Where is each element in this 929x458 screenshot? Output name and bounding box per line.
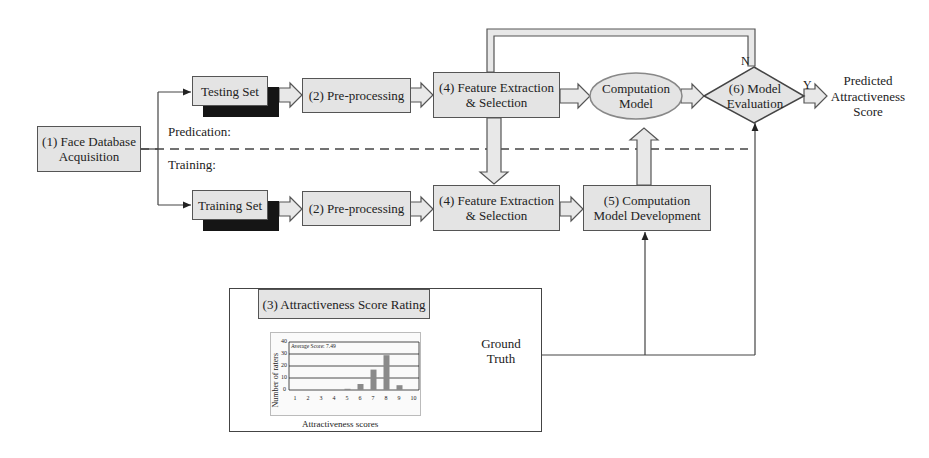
node-computation-model: Computation Model: [590, 80, 682, 112]
histogram-bar: [358, 384, 364, 390]
output-line2: Attractiveness: [831, 89, 905, 105]
node-comp-dev-line2: Model Development: [593, 208, 700, 223]
node-preprocessing-test-label: (2) Pre-processing: [309, 88, 405, 103]
histogram-xtick: 4: [333, 395, 336, 401]
node-testing-set-label: Testing Set: [201, 84, 259, 99]
node-preprocessing-train-label: (2) Pre-processing: [309, 201, 405, 216]
node-feature-extraction-test: (4) Feature Extraction & Selection: [433, 72, 560, 118]
node-feature-test-line2: & Selection: [466, 95, 528, 110]
histogram-bar: [397, 385, 403, 390]
node-attractiveness-rating: (3) Attractiveness Score Rating: [258, 289, 430, 319]
ytick-10: 10: [281, 374, 287, 380]
histogram-annotation: Average Score: 7.49: [291, 343, 336, 349]
node-comp-dev-line1: (5) Computation: [604, 193, 690, 208]
node-preprocessing-test: (2) Pre-processing: [302, 78, 411, 113]
output-line3: Score: [853, 104, 883, 120]
node-training-set-label: Training Set: [198, 198, 262, 213]
node-model-evaluation-line2: Evaluation: [727, 96, 783, 111]
label-training: Training:: [168, 157, 216, 173]
node-feature-train-line2: & Selection: [466, 208, 528, 223]
node-model-evaluation: (6) Model Evaluation: [715, 80, 795, 112]
histogram-xlabel: Attractiveness scores: [302, 419, 378, 429]
node-feature-test-line1: (4) Feature Extraction: [439, 80, 554, 95]
node-feature-extraction-train: (4) Feature Extraction & Selection: [433, 185, 560, 231]
histogram-xtick: 1: [294, 395, 297, 401]
histogram-bar: [345, 389, 351, 390]
histogram-bar: [384, 355, 390, 390]
node-feature-train-line1: (4) Feature Extraction: [439, 193, 554, 208]
label-no: N: [741, 54, 750, 69]
node-face-database: (1) Face Database Acquisition: [37, 126, 141, 172]
ground-truth-label: Ground Truth: [466, 336, 536, 366]
node-preprocessing-train: (2) Pre-processing: [302, 191, 411, 226]
histogram-xtick: 6: [359, 395, 362, 401]
node-face-database-line2: Acquisition: [59, 149, 120, 164]
node-testing-set: Testing Set: [192, 76, 268, 106]
node-computation-model-line2: Model: [619, 96, 653, 111]
rating-histogram: Average Score: 7.49 40 30 20 10 0 123456…: [270, 332, 421, 416]
histogram-xtick: 5: [346, 395, 349, 401]
output-predicted-score: Predicted Attractiveness Score: [826, 73, 910, 120]
node-attractiveness-rating-label: (3) Attractiveness Score Rating: [263, 297, 426, 312]
node-computation-model-development: (5) Computation Model Development: [583, 185, 711, 231]
histogram-xtick: 9: [398, 395, 401, 401]
histogram-bar: [371, 370, 377, 390]
histogram-xtick: 8: [385, 395, 388, 401]
node-computation-model-line1: Computation: [602, 81, 670, 96]
ytick-20: 20: [281, 362, 287, 368]
node-face-database-line1: (1) Face Database: [42, 134, 136, 149]
ground-truth-line2: Truth: [487, 351, 515, 366]
ytick-0: 0: [283, 386, 286, 392]
output-line1: Predicted: [843, 73, 892, 89]
label-yes: Y: [803, 78, 812, 93]
ytick-40: 40: [281, 338, 287, 344]
histogram-xtick: 10: [411, 395, 417, 401]
node-model-evaluation-line1: (6) Model: [729, 81, 781, 96]
histogram-xtick: 2: [307, 395, 310, 401]
ytick-30: 30: [281, 350, 287, 356]
histogram-xtick: 3: [320, 395, 323, 401]
node-training-set: Training Set: [192, 190, 268, 220]
ground-truth-line1: Ground: [481, 336, 521, 351]
histogram-xtick: 7: [372, 395, 375, 401]
label-prediction: Predication:: [168, 124, 231, 140]
histogram-ylabel: Number of raters: [271, 348, 280, 408]
